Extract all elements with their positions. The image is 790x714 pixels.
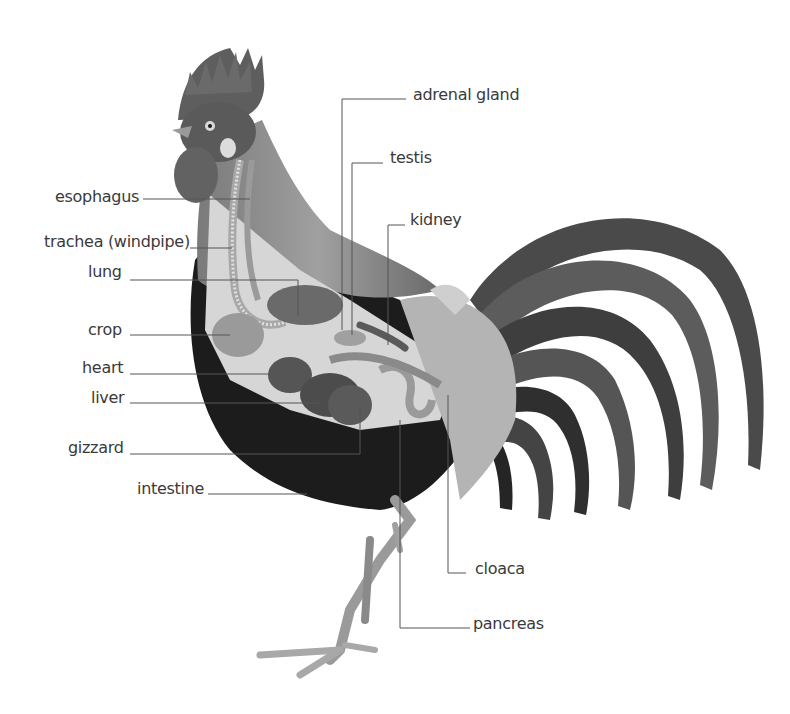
label-adrenal-gland: adrenal gland bbox=[413, 87, 519, 103]
legs-and-feet bbox=[260, 500, 410, 675]
label-trachea: trachea (windpipe) bbox=[44, 234, 190, 250]
label-testis: testis bbox=[390, 150, 432, 166]
label-cloaca: cloaca bbox=[475, 561, 525, 577]
label-pancreas: pancreas bbox=[473, 616, 544, 632]
label-intestine: intestine bbox=[137, 481, 204, 497]
label-heart: heart bbox=[82, 360, 123, 376]
label-crop: crop bbox=[88, 322, 122, 338]
label-gizzard: gizzard bbox=[68, 440, 124, 456]
label-lung: lung bbox=[88, 264, 122, 280]
label-esophagus: esophagus bbox=[55, 189, 139, 205]
label-kidney: kidney bbox=[410, 212, 462, 228]
rooster-illustration bbox=[0, 0, 790, 714]
rooster-anatomy-diagram: esophagus trachea (windpipe) lung crop h… bbox=[0, 0, 790, 714]
label-liver: liver bbox=[91, 390, 124, 406]
